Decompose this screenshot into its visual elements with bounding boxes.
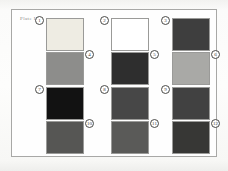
- swatch-number-7: 7: [35, 85, 44, 94]
- color-swatch-3: [172, 18, 210, 51]
- color-swatch-7: [46, 87, 84, 120]
- color-swatch-12: [172, 121, 210, 154]
- swatch-number-11: 11: [150, 119, 159, 128]
- swatch-number-6: 6: [211, 50, 220, 59]
- color-swatch-6: [172, 52, 210, 85]
- color-swatch-9: [172, 87, 210, 120]
- swatch-number-12: 12: [211, 119, 220, 128]
- color-swatch-10: [46, 121, 84, 154]
- color-swatch-5: [111, 52, 149, 85]
- swatch-number-9: 9: [161, 85, 170, 94]
- plate-frame: Plate I 123456789101112: [11, 9, 217, 157]
- color-swatch-8: [111, 87, 149, 120]
- swatch-plate: Plate I 123456789101112: [0, 0, 228, 171]
- swatch-number-3: 3: [161, 16, 170, 25]
- swatch-number-5: 5: [150, 50, 159, 59]
- swatch-number-4: 4: [85, 50, 94, 59]
- swatch-number-2: 2: [100, 16, 109, 25]
- color-swatch-1: [46, 18, 84, 51]
- color-swatch-11: [111, 121, 149, 154]
- plate-caption: Plate I: [20, 16, 36, 21]
- swatch-number-1: 1: [35, 16, 44, 25]
- color-swatch-2: [111, 18, 149, 51]
- swatch-number-10: 10: [85, 119, 94, 128]
- swatch-number-8: 8: [100, 85, 109, 94]
- color-swatch-4: [46, 52, 84, 85]
